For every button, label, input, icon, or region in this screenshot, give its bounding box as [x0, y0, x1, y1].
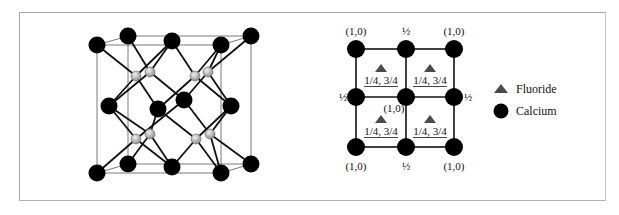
calcium-atom — [445, 88, 463, 106]
calcium-atom — [150, 101, 167, 118]
label-bottom-mid: ½ — [402, 160, 410, 172]
calcium-atom — [397, 138, 415, 156]
legend-label-calcium: Calcium — [516, 104, 557, 118]
calcium-atom — [243, 156, 260, 173]
calcium-atom — [164, 159, 181, 176]
label-top-left: (1,0) — [345, 25, 366, 38]
fluoride-atom — [131, 134, 141, 144]
fluoride-atom — [131, 71, 141, 81]
fluoride-atom — [191, 134, 201, 144]
label-top-mid: ½ — [402, 25, 410, 37]
label-top-right: (1,0) — [443, 25, 464, 38]
calcium-circles — [347, 40, 463, 156]
fluoride-triangle — [375, 64, 387, 72]
label-center: (1,0) — [383, 102, 404, 115]
calcium-atom — [223, 98, 240, 115]
label-bottom-right: (1,0) — [443, 160, 464, 173]
calcium-atom — [243, 28, 260, 45]
fluoride-atom — [205, 129, 215, 139]
calcium-atom — [213, 165, 230, 182]
calcium-atom — [445, 40, 463, 58]
calcium-atom — [397, 40, 415, 58]
label-bottom-left: (1,0) — [345, 160, 366, 173]
legend-label-fluoride: Fluoride — [516, 82, 557, 96]
calcium-atom — [164, 33, 181, 50]
legend: Fluoride Calcium — [494, 82, 558, 119]
fluoride-atom — [145, 129, 155, 139]
fluoride-triangle — [424, 64, 436, 72]
fluoride-height-label: 1/4, 3/4 — [413, 125, 447, 137]
fluoride-triangle — [424, 115, 436, 123]
calcium-circle-icon — [494, 104, 509, 119]
calcium-atom — [176, 92, 193, 109]
calcium-atom — [347, 40, 365, 58]
calcium-atom — [445, 138, 463, 156]
fluoride-atom — [203, 67, 213, 77]
fluoride-height-label: 1/4, 3/4 — [364, 74, 398, 86]
fluoride-height-label: 1/4, 3/4 — [364, 125, 398, 137]
calcium-atom — [347, 88, 365, 106]
crystal-figure: 1/4, 3/4 1/4, 3/4 1/4, 3/4 1/4, 3/4 (1,0… — [0, 0, 619, 215]
unit-cell-3d — [89, 28, 260, 182]
fluoride-atom — [145, 67, 155, 77]
fluoride-atom — [190, 71, 200, 81]
calcium-atom — [101, 98, 118, 115]
fluoride-height-label: 1/4, 3/4 — [413, 74, 447, 86]
label-mid-right: ½ — [464, 91, 472, 103]
calcium-atom — [347, 138, 365, 156]
fluoride-triangle-icon — [494, 84, 508, 93]
calcium-atom — [89, 165, 106, 182]
label-mid-left: ½ — [339, 91, 347, 103]
calcium-atom — [120, 156, 137, 173]
calcium-atom — [89, 37, 106, 54]
projection-2d: 1/4, 3/4 1/4, 3/4 1/4, 3/4 1/4, 3/4 (1,0… — [339, 25, 472, 173]
calcium-atom — [213, 37, 230, 54]
fluoride-triangle — [375, 115, 387, 123]
calcium-atom — [120, 28, 137, 45]
